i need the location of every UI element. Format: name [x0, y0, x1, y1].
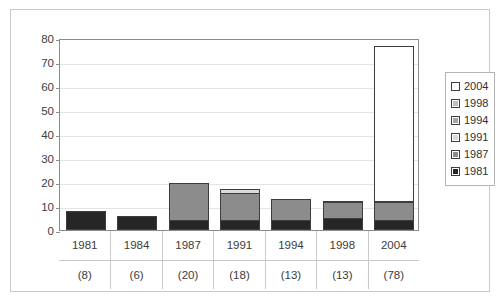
- bar-slot: [317, 40, 368, 230]
- bar-segment-1981[interactable]: [323, 218, 363, 230]
- bar-slot: [266, 40, 317, 230]
- bar-segment-1981[interactable]: [66, 211, 106, 230]
- stacked-bar[interactable]: [66, 211, 106, 230]
- legend-entry-1981[interactable]: 1981: [451, 163, 491, 180]
- y-axis-tick-label: 70: [41, 58, 54, 70]
- x-axis-column: 1984(6): [110, 231, 161, 289]
- legend-label: 1991: [464, 132, 488, 143]
- x-axis-count-label: (13): [317, 261, 367, 290]
- legend-swatch-icon: [451, 116, 460, 125]
- legend-entry-2004[interactable]: 2004: [451, 78, 491, 95]
- bar-slot: [111, 40, 162, 230]
- bar-segment-1981[interactable]: [374, 220, 414, 230]
- legend-swatch-icon: [451, 133, 460, 142]
- plot-area: 01020304050607080: [59, 39, 419, 231]
- y-axis-tick-label: 30: [41, 154, 54, 166]
- x-axis-column: 2004(78): [368, 231, 419, 289]
- x-axis-category-label: 1984: [111, 231, 161, 261]
- stacked-bar[interactable]: [271, 199, 311, 230]
- stacked-bar[interactable]: [220, 189, 260, 230]
- bar-segment-1981[interactable]: [220, 220, 260, 230]
- y-axis-tick-label: 0: [48, 226, 54, 238]
- legend-entry-1994[interactable]: 1994: [451, 112, 491, 129]
- legend-label: 2004: [464, 81, 488, 92]
- legend-entry-1987[interactable]: 1987: [451, 146, 491, 163]
- bar-segment-1987[interactable]: [220, 193, 260, 222]
- legend-swatch-icon: [451, 99, 460, 108]
- x-axis-column: 1991(18): [213, 231, 264, 289]
- y-axis-tick-label: 40: [41, 130, 54, 142]
- bar-segment-1981[interactable]: [117, 216, 157, 230]
- x-axis-category-label: 1998: [317, 231, 367, 261]
- chart-legend: 200419981994199119871981: [445, 72, 495, 186]
- y-axis-tick-label: 60: [41, 82, 54, 94]
- stacked-bar[interactable]: [374, 46, 414, 230]
- legend-swatch-icon: [451, 82, 460, 91]
- y-axis-tick-label: 20: [41, 178, 54, 190]
- x-axis-count-label: (78): [369, 261, 419, 290]
- bar-segment-1981[interactable]: [169, 220, 209, 230]
- bar-segment-1987[interactable]: [169, 183, 209, 221]
- bar-segment-2004[interactable]: [374, 46, 414, 202]
- bar-slot: [163, 40, 214, 230]
- x-axis-count-label: (20): [163, 261, 213, 290]
- x-axis-count-label: (18): [214, 261, 264, 290]
- x-axis-column: 1998(13): [316, 231, 367, 289]
- legend-label: 1998: [464, 98, 488, 109]
- stacked-bar[interactable]: [323, 201, 363, 230]
- legend-swatch-icon: [451, 150, 460, 159]
- legend-entry-1998[interactable]: 1998: [451, 95, 491, 112]
- y-axis-tick-label: 50: [41, 106, 54, 118]
- legend-entry-1991[interactable]: 1991: [451, 129, 491, 146]
- clipped-caption-text: · ·: [230, 0, 360, 4]
- x-axis-column: 1981(8): [59, 231, 110, 289]
- chart-frame: 01020304050607080 1981(8)1984(6)1987(20)…: [10, 9, 490, 292]
- bar-slot: [214, 40, 265, 230]
- bar-slot: [60, 40, 111, 230]
- bar-segment-1981[interactable]: [271, 220, 311, 230]
- bar-segment-1987[interactable]: [271, 199, 311, 222]
- stacked-bar[interactable]: [117, 216, 157, 230]
- bar-segment-1987[interactable]: [323, 202, 363, 219]
- y-axis-tick-label: 10: [41, 202, 54, 214]
- x-axis-category-label: 1981: [59, 231, 110, 261]
- legend-swatch-icon: [451, 167, 460, 176]
- bar-segment-1987[interactable]: [374, 202, 414, 221]
- x-axis-category-label: 1991: [214, 231, 264, 261]
- x-axis-count-label: (13): [266, 261, 316, 290]
- x-axis-count-label: (6): [111, 261, 161, 290]
- legend-label: 1981: [464, 166, 488, 177]
- x-axis-category-label: 2004: [369, 231, 419, 261]
- x-axis-column: 1994(13): [265, 231, 316, 289]
- legend-label: 1994: [464, 115, 488, 126]
- x-axis-column: 1987(20): [162, 231, 213, 289]
- x-axis-label-table: 1981(8)1984(6)1987(20)1991(18)1994(13)19…: [59, 231, 419, 289]
- stacked-bar[interactable]: [169, 183, 209, 230]
- x-axis-category-label: 1987: [163, 231, 213, 261]
- y-axis-tick-label: 80: [41, 34, 54, 46]
- x-axis-category-label: 1994: [266, 231, 316, 261]
- bar-slot: [369, 40, 420, 230]
- x-axis-count-label: (8): [59, 261, 110, 290]
- legend-label: 1987: [464, 149, 488, 160]
